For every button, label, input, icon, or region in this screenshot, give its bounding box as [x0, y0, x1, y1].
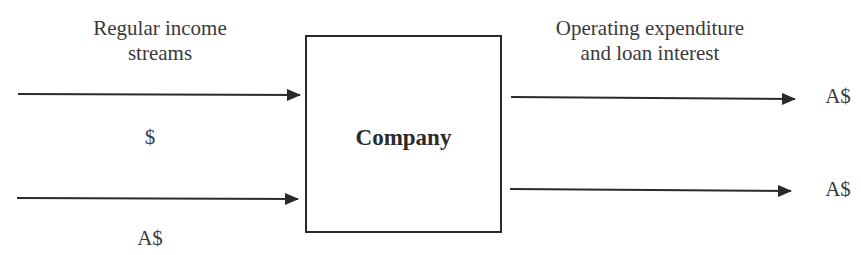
- flow-arrows: [0, 0, 861, 255]
- output-arrow-top: [511, 97, 795, 99]
- input-arrow-bottom: [17, 198, 298, 199]
- input-arrow-top: [18, 94, 300, 95]
- output-arrow-bottom: [510, 189, 791, 191]
